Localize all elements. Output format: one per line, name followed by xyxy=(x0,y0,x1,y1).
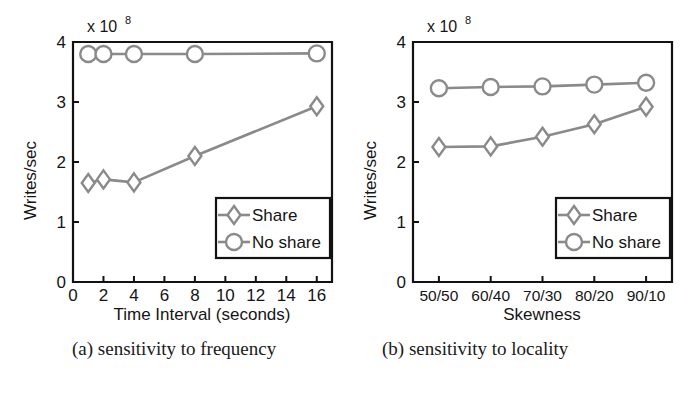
x-axis-title-a: Time Interval (seconds) xyxy=(114,305,291,324)
x-tick-label: 70/30 xyxy=(523,287,562,304)
marker-diamond xyxy=(82,174,95,192)
x-tick-label: 14 xyxy=(277,286,296,305)
marker-diamond xyxy=(310,97,323,115)
marker-circle xyxy=(638,75,654,91)
marker-diamond xyxy=(588,115,601,133)
y-exponent-label-b: x 10 8 xyxy=(427,14,471,35)
marker-circle xyxy=(126,46,142,62)
caption-row: (a) sensitivity to frequency (b) sensiti… xyxy=(0,330,690,396)
legend-label-noshare-a: No share xyxy=(252,233,321,252)
series-group-a xyxy=(80,45,325,192)
marker-circle xyxy=(566,234,582,250)
x-tick-label: 10 xyxy=(216,286,235,305)
series-share xyxy=(432,98,652,156)
marker-diamond xyxy=(484,137,497,155)
marker-diamond xyxy=(536,128,549,146)
x-tick-label: 50/50 xyxy=(420,287,459,304)
y-exponent-text-b: x 10 xyxy=(427,18,457,35)
marker-diamond xyxy=(97,170,110,188)
y-tick-label: 0 xyxy=(57,273,66,292)
x-tick-label: 90/10 xyxy=(627,287,666,304)
x-tick-label: 2 xyxy=(99,286,108,305)
legend-label-noshare-b: No share xyxy=(592,233,661,252)
series-group-b xyxy=(431,75,654,156)
x-tick-label: 80/20 xyxy=(575,287,614,304)
y-tick-label: 4 xyxy=(397,33,406,52)
legend-b: Share No share xyxy=(556,198,670,258)
figure-container: 01234 0246810121416 x 10 8 Writes/sec Ti… xyxy=(0,0,690,396)
x-axis-title-text-b: Skewness xyxy=(503,305,580,324)
x-tick-label: 8 xyxy=(190,286,199,305)
legend-label-share-b: Share xyxy=(592,206,637,225)
y-tick-label: 0 xyxy=(397,273,406,292)
y-tick-label: 2 xyxy=(57,153,66,172)
x-tick-label: 16 xyxy=(307,286,326,305)
marker-circle xyxy=(80,46,96,62)
marker-circle xyxy=(431,80,447,96)
x-tick-label: 4 xyxy=(129,286,138,305)
y-exponent-power: 8 xyxy=(125,14,131,26)
y-axis-title-a: Writes/sec xyxy=(21,140,40,220)
x-tick-label: 12 xyxy=(246,286,265,305)
y-exponent-text: x 10 xyxy=(87,18,117,35)
x-axis-ticks-a: 0246810121416 xyxy=(68,276,326,305)
series-no-share xyxy=(431,75,654,96)
y-axis-title-text-a: Writes/sec xyxy=(21,140,40,220)
marker-circle xyxy=(535,78,551,94)
chart-svg-a: 01234 0246810121416 x 10 8 Writes/sec Ti… xyxy=(0,0,345,330)
marker-circle xyxy=(483,79,499,95)
caption-a: (a) sensitivity to frequency xyxy=(72,338,276,360)
y-exponent-power-b: 8 xyxy=(465,14,471,26)
marker-circle xyxy=(309,45,325,61)
caption-b: (b) sensitivity to locality xyxy=(382,338,568,360)
marker-circle xyxy=(187,46,203,62)
y-axis-title-text-b: Writes/sec xyxy=(361,140,380,220)
series-share xyxy=(82,97,323,192)
y-tick-label: 1 xyxy=(397,213,406,232)
x-tick-label: 0 xyxy=(68,286,77,305)
y-exponent-label-a: x 10 8 xyxy=(87,14,131,35)
y-tick-label: 1 xyxy=(57,213,66,232)
x-axis-ticks-b: 50/5060/4070/3080/2090/10 xyxy=(420,276,666,304)
y-axis-ticks-b: 01234 xyxy=(397,33,419,292)
y-tick-label: 4 xyxy=(57,33,66,52)
y-axis-ticks-a: 01234 xyxy=(57,33,79,292)
marker-circle xyxy=(95,46,111,62)
marker-diamond xyxy=(432,138,445,156)
marker-circle xyxy=(586,77,602,93)
chart-panel-a: 01234 0246810121416 x 10 8 Writes/sec Ti… xyxy=(0,0,345,330)
marker-diamond xyxy=(127,173,140,191)
legend-label-share-a: Share xyxy=(252,206,297,225)
marker-circle xyxy=(226,234,242,250)
series-no-share xyxy=(80,45,325,62)
chart-panel-b: 01234 50/5060/4070/3080/2090/10 x 10 8 W… xyxy=(345,0,690,330)
y-axis-title-b: Writes/sec xyxy=(361,140,380,220)
x-tick-label: 60/40 xyxy=(471,287,510,304)
y-tick-label: 3 xyxy=(57,93,66,112)
series-line xyxy=(88,106,317,183)
x-tick-label: 6 xyxy=(160,286,169,305)
x-axis-title-text-a: Time Interval (seconds) xyxy=(114,305,291,324)
chart-svg-b: 01234 50/5060/4070/3080/2090/10 x 10 8 W… xyxy=(345,0,690,330)
y-tick-label: 2 xyxy=(397,153,406,172)
legend-a: Share No share xyxy=(216,198,330,258)
marker-diamond xyxy=(640,98,653,116)
x-axis-title-b: Skewness xyxy=(503,305,580,324)
marker-diamond xyxy=(188,147,201,165)
y-tick-label: 3 xyxy=(397,93,406,112)
